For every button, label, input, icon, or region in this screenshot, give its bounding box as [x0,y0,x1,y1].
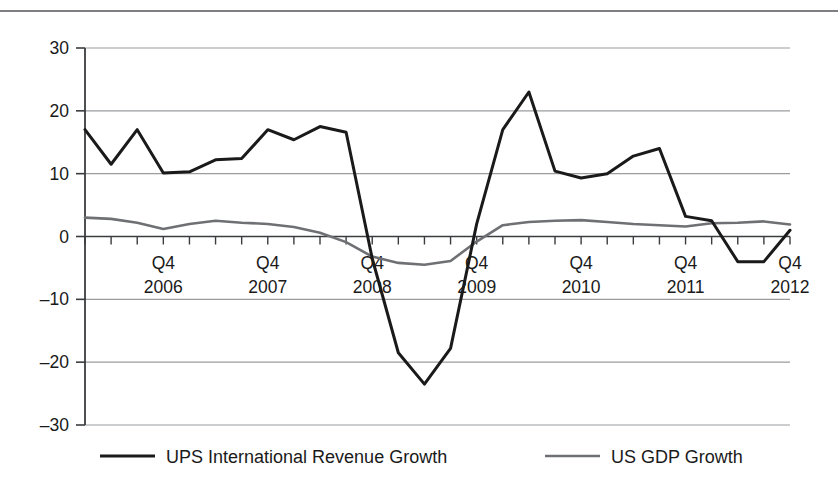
series-line-ups-international-revenue-growth [85,92,790,384]
x-tick-label-quarter: Q4 [569,253,593,273]
x-tick-label-year: 2011 [667,277,705,297]
x-tick-label-year: 2008 [353,277,392,297]
x-tick-labels-group: Q42006Q42007Q42008Q42009Q42010Q42011Q420… [144,253,810,297]
x-axis [85,237,790,245]
y-axis: 3020100–10–20–30 [40,38,85,435]
y-tick-label: –10 [40,289,69,309]
x-tick-label-quarter: Q4 [778,253,802,273]
page-top-rule [0,10,838,12]
x-tick-label-year: 2010 [562,277,601,297]
y-tick-label: 30 [50,38,70,58]
line-chart: 3020100–10–20–30 Q42006Q42007Q42008Q4200… [0,0,838,492]
chart-figure: 3020100–10–20–30 Q42006Q42007Q42008Q4200… [0,0,838,492]
y-tick-label: 20 [50,101,70,121]
x-tick-label-year: 2006 [144,277,183,297]
legend-label: US GDP Growth [611,447,743,467]
legend-label: UPS International Revenue Growth [166,447,447,467]
x-tick-label-year: 2012 [771,277,810,297]
data-series-group [85,92,790,384]
y-tick-label: 10 [50,164,70,184]
y-tick-label: –30 [40,415,69,435]
x-tick-label-quarter: Q4 [152,253,176,273]
x-tick-label-quarter: Q4 [674,253,698,273]
y-tick-label: 0 [59,227,69,247]
x-tick-label-quarter: Q4 [256,253,280,273]
chart-legend: UPS International Revenue GrowthUS GDP G… [100,447,743,467]
x-tick-label-year: 2007 [248,277,287,297]
y-tick-label: –20 [40,352,69,372]
